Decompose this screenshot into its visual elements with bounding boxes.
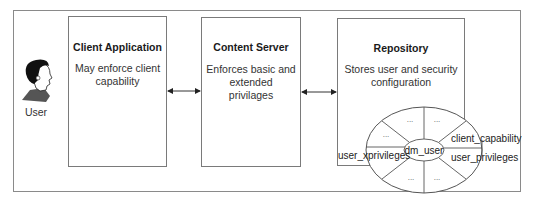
placeholder-segment: ... <box>407 115 414 124</box>
connectors-layer: dm_user ... ... ... ... ... client_capab… <box>0 0 536 204</box>
placeholder-segment: ... <box>434 173 441 182</box>
dm-user-object-model: dm_user ... ... ... ... ... client_capab… <box>338 107 522 193</box>
user-privileges-label: user_privileges <box>451 152 518 163</box>
placeholder-segment: ... <box>383 130 390 139</box>
dm-user-label: dm_user <box>405 145 445 156</box>
client-capability-label: client_capability <box>451 133 522 144</box>
placeholder-segment: ... <box>434 115 441 124</box>
user-xprivileges-label: user_xprivileges <box>338 150 410 161</box>
placeholder-segment: ... <box>408 173 415 182</box>
